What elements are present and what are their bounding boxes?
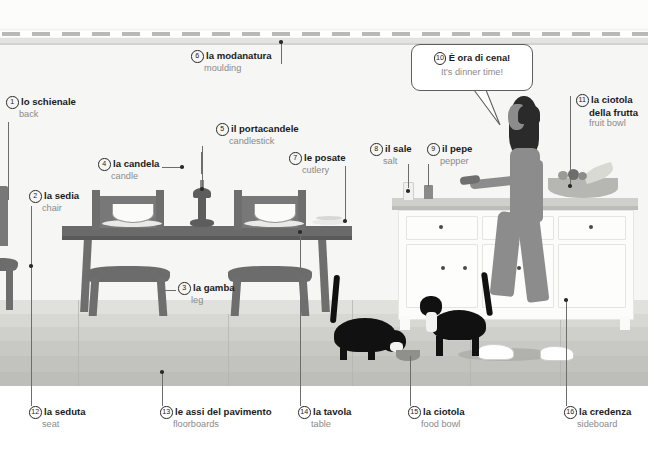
- illustration-page: 1lo schienale back 2la sedia chair 3la g…: [0, 0, 662, 451]
- bubble-italian-text: È ora di cena!: [449, 52, 510, 63]
- speech-bubble-tail: [0, 0, 662, 451]
- bubble-italian: 10È ora di cena!: [412, 52, 532, 65]
- bubble-english: It's dinner time!: [412, 67, 532, 77]
- callout-number-10: 10: [434, 52, 447, 65]
- speech-bubble: 10È ora di cena! It's dinner time!: [411, 44, 533, 91]
